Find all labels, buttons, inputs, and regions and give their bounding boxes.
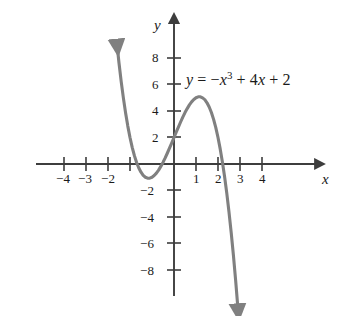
y-tick-label-4: 4 [152,104,159,117]
y-tick-label-8: 8 [152,51,159,64]
equation-constant-2: 2 [282,71,290,88]
equation-plus-1: + [237,71,246,88]
x-tick-label--3: −3 [78,172,92,185]
y-tick-label-6: 6 [152,78,159,91]
x-tick-label--4: −4 [56,172,70,185]
graph-figure: −4 −3 −2 1 2 3 4 8 6 4 2 −2 −4 −6 −8 y x… [0,0,361,316]
x-tick-label-3: 3 [237,172,244,185]
cartesian-plot [0,0,361,316]
equation-minus-sign: − [211,71,220,88]
equation-plus-2: + [269,71,278,88]
equation-coefficient-4: 4 [250,71,258,88]
y-axis [167,22,181,296]
x-axis [36,157,316,171]
x-tick-label--2: −2 [101,172,115,185]
y-tick-label--4: −4 [140,211,154,224]
x-tick-label-1: 1 [193,172,200,185]
y-tick-label-2: 2 [152,131,159,144]
y-tick-label--8: −8 [140,264,154,277]
equation-variable-x2: x [258,71,265,88]
x-tick-label-2: 2 [215,172,222,185]
y-tick-label--6: −6 [140,237,154,250]
x-axis-label: x [322,172,329,187]
y-axis-label: y [154,18,161,33]
x-tick-label-4: 4 [259,172,266,185]
y-tick-label--2: −2 [140,184,154,197]
equation-variable-x: x [220,71,227,88]
equation-annotation: y = −x3 + 4x + 2 [186,72,291,88]
